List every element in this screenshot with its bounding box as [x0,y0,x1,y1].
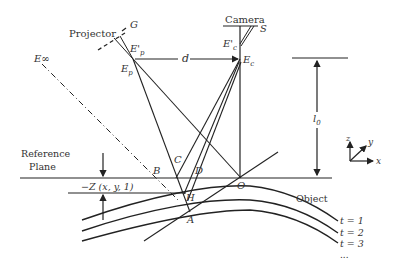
object-curve-t3 [82,210,338,243]
e-infinity-line [42,64,178,200]
label-C: C [174,154,182,165]
axis-z-label: z [345,134,351,143]
label-E-infinity: E∞ [33,53,50,64]
label-ellipsis: ... [340,250,349,260]
reference-plane-label-1: Reference [21,148,71,159]
ray-Ep-A [133,59,190,212]
object-label: Object [296,193,328,204]
projector-label: Projector [69,28,116,39]
label-d: d [182,52,189,65]
label-Ec-prime: E'c [222,38,237,52]
label-D: D [194,165,203,176]
label-t2: t = 2 [340,227,364,238]
label-Ep: Ep [120,63,133,77]
label-A: A [186,214,194,225]
label-Ec: Ec [242,54,254,68]
label-G: G [130,19,138,30]
ray-Ep-O [133,59,241,178]
camera-label: Camera [225,14,265,25]
label-t1: t = 1 [340,215,364,226]
label-B: B [152,165,160,176]
reference-plane-label-2: Plane [29,161,56,172]
axis-y-arrow [350,146,366,161]
ray-Ec-D [188,62,241,200]
axis-y-label: y [367,137,374,147]
projector-camera-geometry-diagram: Projector G Camera S E'p Ep E'c Ec E∞ d … [0,0,398,272]
label-Ep-prime: E'p [129,43,145,57]
ray-Ec-H [184,62,239,194]
ray-Ec-C [176,59,240,178]
label-l0: l0 [313,113,321,127]
object-curve-t2 [82,200,338,233]
label-O: O [237,180,245,191]
z-expression-label: −Z (x, y, 1) [81,181,134,192]
camera-ray-S1 [240,26,251,44]
label-S: S [260,23,267,34]
axis-x-label: x [376,156,381,166]
projector-G-tick [122,28,126,31]
camera-ray-S2 [241,26,254,46]
label-H: H [185,192,195,203]
label-t3: t = 3 [340,238,364,249]
